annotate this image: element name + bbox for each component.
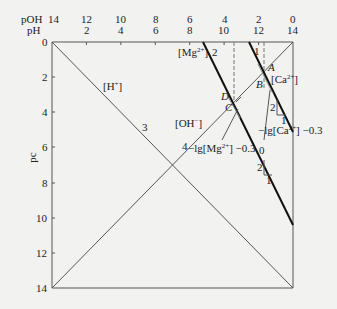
pc-tick: 6	[42, 142, 48, 153]
mg-slope-run: 1	[266, 175, 272, 186]
ph-tick: 2	[84, 25, 90, 36]
ca-slope-rise: 2	[270, 102, 276, 113]
pc-tick: 2	[42, 72, 48, 83]
h-label: [H+]	[103, 81, 122, 92]
ph-axis-label: pH	[27, 25, 40, 36]
ph-tick: 12	[253, 25, 264, 36]
pc-axis-label: pc	[27, 152, 38, 162]
ca-intercept-label: −lg[Ca2+] −0.3	[258, 125, 322, 136]
mg-slope-rise: 2	[257, 162, 263, 173]
ca-slope-run: 1	[281, 115, 287, 126]
pc-tick: 8	[42, 178, 48, 189]
mg-leader	[222, 109, 238, 140]
pc-tick: 4	[42, 107, 48, 118]
pc-tick: 0	[42, 37, 48, 48]
pc-tick: 10	[36, 213, 47, 224]
mg-line-number: 2	[212, 47, 218, 58]
ph-tick: 14	[287, 25, 298, 36]
ph-tick: 4	[118, 25, 124, 36]
ph-tick: 6	[153, 25, 159, 36]
h-line-number: 3	[142, 122, 148, 133]
mg-label: [Mg2+]	[178, 47, 208, 58]
ca-line-number: 1	[254, 46, 260, 57]
pc-tick: 14	[36, 283, 47, 294]
poh-tick: 14	[48, 14, 59, 25]
point-c: C	[225, 102, 232, 113]
ph-tick: 8	[187, 25, 193, 36]
ph-tick: 10	[218, 25, 229, 36]
diagram-lines	[0, 0, 337, 309]
mg-zero-label: 0	[259, 145, 265, 156]
point-d: D	[221, 91, 229, 102]
point-b: B	[256, 79, 263, 90]
pc-tick: 12	[36, 248, 47, 259]
pc-ph-diagram: pOH pH pc 14 12 10 8 6 4 2 0 2 4 6 8 10 …	[0, 0, 337, 309]
ca-label: [Ca2+]	[271, 74, 298, 85]
mg-intercept-label: −lg[Mg2+] −0.3	[188, 143, 256, 154]
point-a: A	[268, 62, 275, 73]
oh-label: [OH−]	[175, 118, 202, 129]
oh-line-number: 4	[182, 141, 188, 152]
